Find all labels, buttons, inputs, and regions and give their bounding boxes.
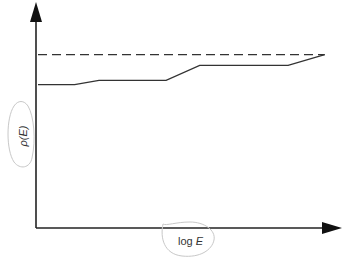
y-axis-label: ρ(E) bbox=[17, 125, 29, 147]
chart: ρ(E) log E bbox=[0, 0, 343, 260]
x-axis-label-log: log bbox=[178, 235, 196, 247]
y-axis-arrowhead bbox=[30, 2, 42, 22]
rho-e-line bbox=[38, 55, 325, 85]
x-axis-label: log E bbox=[178, 235, 204, 247]
x-axis-arrowhead bbox=[322, 222, 342, 234]
series-layer bbox=[38, 55, 325, 85]
x-axis-label-var: E bbox=[196, 235, 204, 247]
